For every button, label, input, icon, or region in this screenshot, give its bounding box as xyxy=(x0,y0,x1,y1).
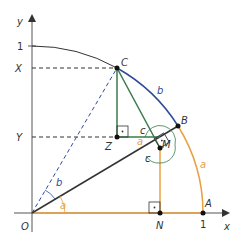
segment-OB xyxy=(32,126,178,213)
label-X: X xyxy=(14,63,23,74)
point-C xyxy=(115,66,120,71)
angle-arc-b-origin xyxy=(45,190,55,199)
angle-a-at-M-label: a xyxy=(137,136,143,147)
point-Z xyxy=(115,135,120,140)
label-M: M xyxy=(162,139,171,150)
point-A xyxy=(201,211,206,216)
angle-a-origin-label: a xyxy=(60,200,66,211)
unit-circle-diagram: y x 1 1 O X Y C B M Z N A b a a b a c c xyxy=(0,0,246,248)
y-axis-label: y xyxy=(16,16,24,27)
arc-b xyxy=(117,68,178,126)
arc-b-label: b xyxy=(157,85,163,96)
label-C: C xyxy=(121,57,128,68)
label-N: N xyxy=(156,220,164,231)
angle-c-upper-label: c xyxy=(140,125,146,136)
label-Y: Y xyxy=(16,132,23,143)
unit-circle-arc-top xyxy=(32,46,117,68)
point-B xyxy=(176,124,181,129)
arc-a-label: a xyxy=(200,159,206,170)
angle-c-lower-label: c xyxy=(145,153,151,164)
label-Z: Z xyxy=(104,141,113,152)
angle-b-origin-label: b xyxy=(56,177,62,188)
label-A: A xyxy=(204,198,212,209)
x-axis-label: x xyxy=(223,221,230,232)
origin-label: O xyxy=(21,221,29,232)
label-B: B xyxy=(181,115,188,126)
x-tick-label-1: 1 xyxy=(200,219,206,230)
point-N xyxy=(158,211,163,216)
y-tick-label-1: 1 xyxy=(17,41,23,52)
